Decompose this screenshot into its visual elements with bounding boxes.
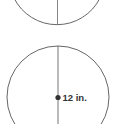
measurement-label: 12 in.: [63, 92, 87, 103]
top-circle: [14, 0, 100, 25]
center-dot-icon: [55, 95, 60, 100]
top-circle-arc: [14, 0, 100, 25]
circles-diagram: 12 in.: [0, 0, 116, 124]
bottom-circle: 12 in.: [7, 46, 109, 124]
